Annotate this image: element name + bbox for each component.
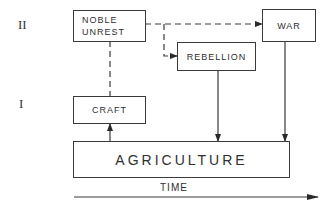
node-noble-unrest: NOBLE UNREST	[73, 10, 146, 42]
node-noble-unrest-line1: NOBLE	[82, 14, 125, 26]
node-rebellion-label: REBELLION	[187, 52, 247, 62]
node-agriculture-label: AGRICULTURE	[115, 152, 247, 168]
level-label-1: I	[19, 96, 23, 112]
node-war-label: WAR	[277, 21, 301, 31]
edge-noble-to-rebellion	[164, 24, 177, 56]
node-craft: CRAFT	[73, 96, 146, 124]
node-agriculture: AGRICULTURE	[73, 141, 290, 178]
node-war: WAR	[262, 9, 316, 42]
node-rebellion: REBELLION	[177, 42, 256, 71]
node-noble-unrest-line2: UNREST	[82, 26, 125, 38]
node-craft-label: CRAFT	[92, 105, 127, 115]
diagram-canvas: II I NOBLE UNREST WAR REBELLION CRAFT AG…	[0, 0, 330, 211]
level-label-2: II	[18, 17, 27, 33]
time-axis-label: TIME	[160, 182, 188, 193]
